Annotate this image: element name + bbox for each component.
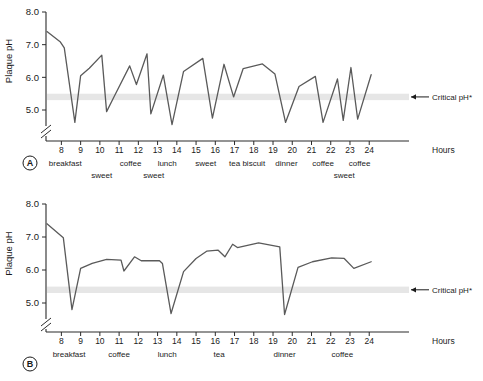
ph-curve	[47, 224, 371, 315]
x-axis-tick-label: 16	[211, 336, 221, 346]
x-axis-tick-label: 21	[307, 336, 317, 346]
critical-ph-band	[47, 287, 409, 293]
x-axis-title: Hours	[432, 145, 455, 155]
x-axis-tick-label: 10	[95, 336, 105, 346]
x-axis-tick-label: 17	[230, 145, 240, 155]
meal-event-label: dinner	[275, 159, 298, 168]
x-axis-tick-label: 21	[307, 145, 317, 155]
x-axis-tick-label: 12	[134, 336, 144, 346]
meal-event-label: coffee	[312, 159, 334, 168]
meal-event-label: sweet	[143, 171, 165, 180]
x-axis-tick-label: 23	[345, 145, 355, 155]
meal-event-label: sweet	[91, 171, 113, 180]
x-axis-tick-label: 13	[153, 336, 163, 346]
meal-event-label: coffee	[349, 159, 371, 168]
critical-ph-arrow-head	[411, 94, 416, 99]
y-axis-tick-label: 5.0	[26, 297, 39, 308]
x-axis-tick-label: 23	[345, 336, 355, 346]
y-axis-title: Plaque pH	[3, 231, 14, 276]
x-axis-tick-label: 16	[211, 145, 221, 155]
x-axis-tick-label: 22	[326, 145, 336, 155]
x-axis-tick-label: 18	[249, 145, 259, 155]
x-axis-tick-label: 15	[191, 336, 201, 346]
x-axis-tick-label: 8	[59, 336, 64, 346]
critical-ph-arrow-head	[411, 287, 416, 292]
x-axis-tick-label: 14	[172, 145, 182, 155]
chart-a-svg: 5.06.07.08.0Plaque pH8910111213141516171…	[0, 0, 483, 190]
x-axis-tick-label: 15	[191, 145, 201, 155]
critical-ph-label: Critical pH*	[432, 93, 472, 102]
meal-event-label: breakfast	[53, 350, 87, 359]
meal-event-label: biscuit	[242, 159, 265, 168]
x-axis-tick-label: 9	[78, 145, 83, 155]
meal-event-label: breakfast	[49, 159, 83, 168]
x-axis-tick-label: 11	[115, 336, 124, 346]
x-axis-tick-label: 8	[59, 145, 64, 155]
x-axis-tick-label: 22	[326, 336, 336, 346]
y-axis-title: Plaque pH	[3, 39, 14, 84]
x-axis-tick-label: 14	[172, 336, 182, 346]
y-axis-tick-label: 6.0	[26, 72, 39, 83]
y-axis-tick-label: 8.0	[26, 6, 39, 17]
x-axis-tick-label: 19	[268, 145, 278, 155]
x-axis-tick-label: 24	[364, 145, 374, 155]
x-axis-tick-label: 20	[288, 145, 298, 155]
panel-label-letter: A	[27, 158, 34, 168]
y-axis-tick-label: 6.0	[26, 264, 39, 275]
meal-event-label: coffee	[108, 350, 130, 359]
meal-event-label: tea	[229, 159, 241, 168]
meal-event-label: coffee	[120, 159, 142, 168]
y-axis-tick-label: 8.0	[26, 198, 39, 209]
y-axis-tick-label: 7.0	[26, 39, 39, 50]
meal-event-label: sweet	[195, 159, 217, 168]
meal-event-label: lunch	[158, 350, 177, 359]
chart-b-canvas: 5.06.07.08.0Plaque pH8910111213141516171…	[0, 190, 483, 381]
panel-label-letter: B	[27, 359, 34, 369]
y-axis-tick-label: 7.0	[26, 231, 39, 242]
ph-curve	[47, 32, 371, 125]
meal-event-label: coffee	[331, 350, 353, 359]
x-axis-tick-label: 20	[288, 336, 298, 346]
x-axis-tick-label: 9	[78, 336, 83, 346]
meal-event-label: sweet	[334, 171, 356, 180]
meal-event-label: lunch	[158, 159, 177, 168]
chart-panel-b: 5.06.07.08.0Plaque pH8910111213141516171…	[0, 190, 483, 381]
chart-b-svg: 5.06.07.08.0Plaque pH8910111213141516171…	[0, 190, 483, 381]
x-axis-tick-label: 18	[249, 336, 259, 346]
x-axis-tick-label: 10	[95, 145, 105, 155]
x-axis-tick-label: 19	[268, 336, 278, 346]
y-axis-tick-label: 5.0	[26, 104, 39, 115]
x-axis-tick-label: 12	[134, 145, 144, 155]
x-axis-tick-label: 13	[153, 145, 163, 155]
x-axis-tick-label: 17	[230, 336, 240, 346]
chart-panel-a: 5.06.07.08.0Plaque pH8910111213141516171…	[0, 0, 483, 190]
critical-ph-label: Critical pH*	[432, 286, 472, 295]
meal-event-label: dinner	[273, 350, 296, 359]
chart-a-canvas: 5.06.07.08.0Plaque pH8910111213141516171…	[0, 0, 483, 190]
x-axis-tick-label: 24	[364, 336, 374, 346]
x-axis-title: Hours	[432, 336, 455, 346]
meal-event-label: tea	[214, 350, 226, 359]
x-axis-tick-label: 11	[115, 145, 124, 155]
